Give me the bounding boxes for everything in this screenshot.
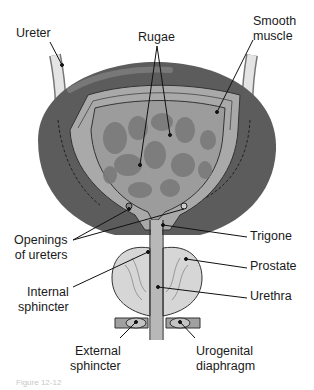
figure-caption: Figure 12-12 — [16, 378, 61, 387]
label-urethra: Urethra — [250, 289, 292, 304]
bladder-diagram — [0, 0, 314, 390]
label-urogenital-diaphragm: Urogenital diaphragm — [196, 344, 255, 374]
label-prostate: Prostate — [250, 259, 297, 274]
label-internal-sphincter: Internal sphincter — [18, 285, 69, 315]
label-trigone: Trigone — [250, 229, 292, 244]
label-external-sphincter: External sphincter — [70, 344, 121, 374]
label-smooth-muscle: Smooth muscle — [253, 14, 296, 44]
prostate-gland — [112, 247, 150, 316]
ureter-opening-right — [181, 203, 187, 209]
label-rugae: Rugae — [138, 30, 175, 45]
label-openings-of-ureters: Openings of ureters — [14, 233, 68, 263]
label-ureter: Ureter — [16, 26, 51, 41]
